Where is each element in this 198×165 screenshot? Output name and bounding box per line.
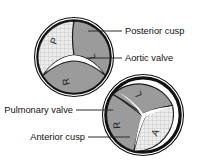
label-aortic-valve: Aortic valve xyxy=(125,53,173,63)
aortic-valve-group: L R A xyxy=(103,75,184,156)
label-posterior-cusp: Posterior cusp xyxy=(125,26,184,36)
valve-diagram-figure: P L R L R A xyxy=(0,0,198,165)
label-anterior-cusp: Anterior cusp xyxy=(30,132,85,142)
valve-diagram-svg: P L R L R A xyxy=(0,0,198,165)
pulmonary-valve-group: P L R xyxy=(35,18,114,97)
aortic-cusp-letter-r: R xyxy=(111,121,123,129)
label-pulmonary-valve: Pulmonary valve xyxy=(4,105,73,115)
